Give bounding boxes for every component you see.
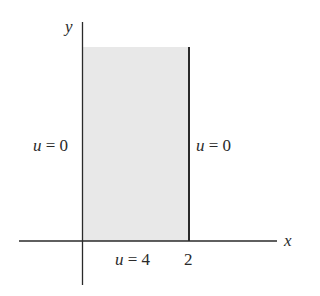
right-bc-eq: = <box>205 136 223 155</box>
left-bc-value: 0 <box>60 136 69 155</box>
y-axis-label: y <box>65 18 73 35</box>
bottom-boundary-condition: u = 4 <box>115 251 150 268</box>
shaded-region <box>83 47 188 241</box>
left-bc-var: u <box>33 136 42 155</box>
right-bc-var: u <box>196 136 205 155</box>
x-tick-label-2: 2 <box>184 251 193 268</box>
bottom-bc-var: u <box>115 250 124 269</box>
bottom-bc-value: 4 <box>142 250 151 269</box>
bottom-bc-eq: = <box>124 250 142 269</box>
right-boundary-condition: u = 0 <box>196 137 231 154</box>
left-bc-eq: = <box>42 136 60 155</box>
right-bc-value: 0 <box>223 136 232 155</box>
left-boundary-condition: u = 0 <box>33 137 68 154</box>
x-axis-label: x <box>284 232 292 249</box>
